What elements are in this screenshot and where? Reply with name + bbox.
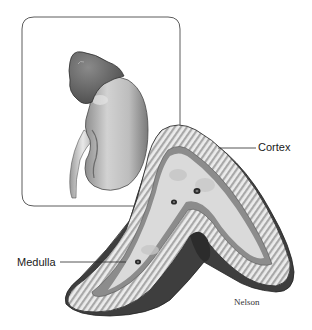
artist-signature: Nelson	[234, 297, 260, 307]
medulla-label: Medulla	[17, 256, 56, 268]
cortex-label: Cortex	[258, 141, 290, 153]
adrenal-gland-figure: Cortex Medulla Nelson	[0, 0, 312, 330]
illustration	[0, 0, 312, 330]
